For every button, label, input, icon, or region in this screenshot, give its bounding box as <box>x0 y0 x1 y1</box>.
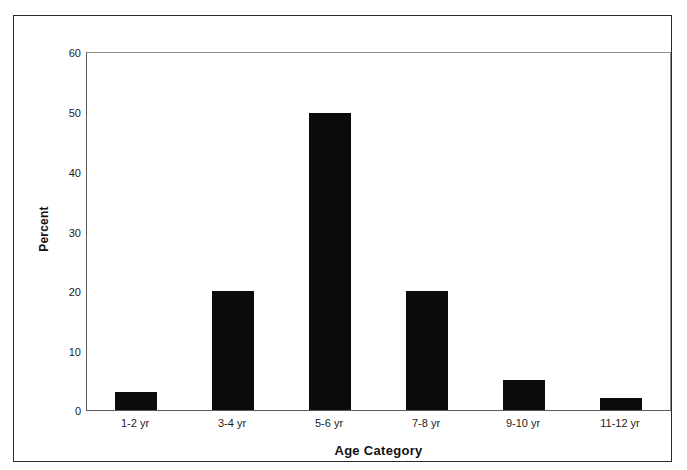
bar-7-8-yr <box>406 291 448 410</box>
bar-5-6-yr <box>309 113 351 411</box>
y-tick-40: 40 <box>57 167 81 178</box>
y-tick-30: 30 <box>57 227 81 238</box>
x-tick-5-6-yr: 5-6 yr <box>289 416 369 430</box>
chart-figure: 60 50 40 30 20 10 0 Percent 1-2 yr 3-4 y… <box>0 0 687 470</box>
y-tick-50: 50 <box>57 107 81 118</box>
x-axis-title: Age Category <box>86 443 671 458</box>
y-tick-0: 0 <box>57 406 81 417</box>
x-tick-7-8-yr: 7-8 yr <box>386 416 466 430</box>
y-tick-10: 10 <box>57 347 81 358</box>
y-axis-title-text: Percent <box>37 200 51 258</box>
x-tick-11-12-yr: 11-12 yr <box>580 416 660 430</box>
x-tick-9-10-yr: 9-10 yr <box>483 416 563 430</box>
bar-1-2-yr <box>115 392 157 410</box>
y-axis-tick-labels: 60 50 40 30 20 10 0 <box>54 52 81 411</box>
bar-3-4-yr <box>212 291 254 410</box>
bar-11-12-yr <box>600 398 642 410</box>
y-tick-60: 60 <box>57 48 81 59</box>
y-axis-title: Percent <box>36 197 52 261</box>
bar-series <box>87 53 670 410</box>
plot-area <box>86 52 671 411</box>
bar-9-10-yr <box>503 380 545 410</box>
x-axis-tick-labels: 1-2 yr 3-4 yr 5-6 yr 7-8 yr 9-10 yr 11-1… <box>86 416 671 434</box>
x-tick-3-4-yr: 3-4 yr <box>192 416 272 430</box>
y-tick-20: 20 <box>57 287 81 298</box>
figure-border: 60 50 40 30 20 10 0 Percent 1-2 yr 3-4 y… <box>13 15 672 462</box>
x-tick-1-2-yr: 1-2 yr <box>95 416 175 430</box>
